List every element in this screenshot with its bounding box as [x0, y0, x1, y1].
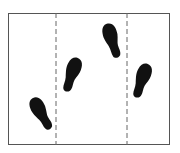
- footprint-icon-4: [129, 62, 154, 100]
- footprint-diagram: [0, 0, 180, 153]
- footprint-icon-2: [59, 56, 84, 94]
- footprint-icon-1: [26, 95, 56, 133]
- footprint-icon-3: [100, 22, 125, 60]
